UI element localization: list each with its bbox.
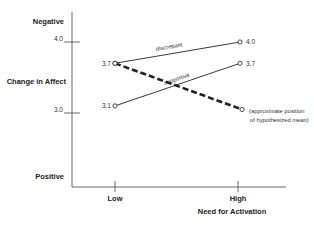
y-tick-label: 3.0 [54, 106, 63, 113]
x-tick-label: Low [108, 194, 123, 203]
data-point [113, 61, 117, 65]
data-label: 3.7 [102, 60, 111, 67]
y-axis-title: Change in Affect [7, 77, 67, 86]
x-axis-title: Need for Activation [198, 207, 267, 216]
y-tick-label: 4.0 [54, 35, 63, 42]
data-point [240, 107, 244, 111]
data-label: 3.1 [102, 102, 111, 109]
data-point [238, 40, 242, 44]
data-label: 4.0 [246, 38, 255, 45]
y-top-label: Negative [33, 17, 64, 26]
x-tick-label: High [230, 194, 247, 203]
annotation-line-1: (approximate position [249, 108, 304, 114]
y-bottom-label: Positive [35, 172, 64, 181]
series-line-hypothesized-mean [115, 63, 242, 109]
chart: Negative Change in Affect Positive 4.03.… [0, 0, 314, 228]
series-name-label: supportive [163, 72, 190, 86]
data-label: 3.7 [246, 60, 255, 67]
series-name-label: discrepant [155, 41, 183, 51]
annotation-line-2: of hypothesized mean) [250, 117, 309, 123]
data-point [113, 104, 117, 108]
data-point [238, 61, 242, 65]
